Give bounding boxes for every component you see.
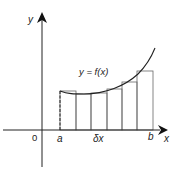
- rectangle-6: [137, 71, 153, 130]
- width-label: δx: [93, 133, 105, 144]
- x-axis-label: x: [163, 133, 170, 144]
- curve-label: y = f(x): [78, 66, 108, 77]
- rectangle-4: [107, 89, 122, 130]
- rectangles: [60, 71, 153, 130]
- rectangle-2: [76, 94, 91, 130]
- y-axis-label: y: [27, 14, 34, 25]
- interval-end-label: b: [148, 131, 154, 142]
- interval-start-label: a: [57, 133, 63, 144]
- riemann-sum-diagram: y y = f(x) 0 a δx b x: [0, 0, 177, 184]
- rectangle-3: [91, 93, 107, 130]
- origin-label: 0: [32, 132, 37, 143]
- rectangle-1: [60, 91, 76, 130]
- rectangle-5: [122, 82, 137, 130]
